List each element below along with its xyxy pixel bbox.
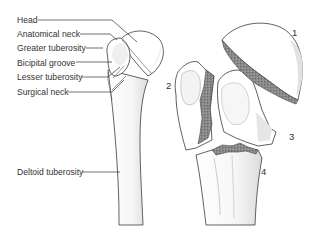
fractured-humerus: 1 2 3 4 [166, 23, 303, 225]
humerus-diagram: Head Anatomical neck Greater tuberosity … [0, 0, 325, 235]
label-lesser-tuberosity: Lesser tuberosity [17, 72, 83, 82]
label-anatomical-neck: Anatomical neck [17, 29, 81, 39]
fragment-number-3: 3 [289, 131, 294, 142]
label-surgical-neck: Surgical neck [17, 87, 69, 97]
label-greater-tuberosity: Greater tuberosity [17, 43, 86, 53]
fragment-number-1: 1 [292, 27, 297, 38]
fragment-number-2: 2 [166, 80, 171, 91]
label-head: Head [17, 15, 38, 25]
fragment-number-4: 4 [261, 166, 266, 177]
leader-anatomical-neck [80, 34, 117, 40]
intact-humerus: Head Anatomical neck Greater tuberosity … [17, 15, 163, 225]
label-deltoid-tuberosity: Deltoid tuberosity [17, 167, 84, 177]
label-bicipital-groove: Bicipital groove [17, 58, 75, 68]
